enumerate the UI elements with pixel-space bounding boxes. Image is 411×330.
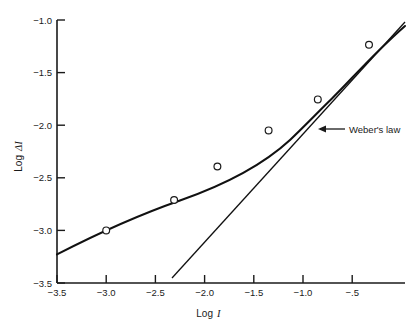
data-point [103, 227, 110, 234]
x-tick-label: −3.0 [97, 287, 116, 298]
y-tick-label: −1.0 [33, 15, 52, 26]
x-tick-label: −3.5 [48, 287, 67, 298]
data-points [103, 41, 373, 233]
y-axis-title-prefix: Log [13, 155, 24, 172]
chart-figure: −1.0 −1.5 −2.0 −2.5 −3.0 −3.5 −3.5 −3.0 … [0, 0, 411, 330]
y-tick-label: −2.0 [33, 120, 52, 131]
y-axis-title-symbol: ΔI [13, 141, 24, 152]
x-axis-ticks [57, 275, 352, 283]
chart-svg: −1.0 −1.5 −2.0 −2.5 −3.0 −3.5 −3.5 −3.0 … [0, 0, 411, 330]
x-tick-label: −1.5 [244, 287, 263, 298]
annotation-arrow-head-icon [318, 126, 326, 133]
y-axis-ticks [57, 20, 65, 283]
webers-law-annotation: Weber's law [318, 124, 400, 135]
data-point [214, 163, 221, 170]
y-axis-title: Log ΔI [13, 141, 24, 172]
data-point [265, 127, 272, 134]
y-axis-tick-labels: −1.0 −1.5 −2.0 −2.5 −3.0 −3.5 [33, 15, 52, 289]
x-tick-label: −2.0 [195, 287, 214, 298]
annotation-label: Weber's law [349, 124, 400, 135]
x-axis-tick-labels: −3.5 −3.0 −2.5 −2.0 −1.5 −1.0 −.5 [48, 287, 359, 298]
x-axis-title-prefix: Log [196, 308, 213, 319]
y-tick-label: −2.5 [33, 172, 52, 183]
data-point [314, 96, 321, 103]
data-point [366, 41, 373, 48]
x-axis-title: Log I [196, 308, 221, 319]
y-tick-label: −1.5 [33, 67, 52, 78]
x-axis-title-symbol: I [216, 308, 221, 319]
y-tick-label: −3.0 [33, 225, 52, 236]
fitted-curve [57, 26, 405, 254]
x-tick-label: −.5 [345, 287, 358, 298]
data-point [171, 197, 178, 204]
x-tick-label: −2.5 [146, 287, 165, 298]
x-tick-label: −1.0 [294, 287, 313, 298]
axes-group [57, 20, 405, 283]
